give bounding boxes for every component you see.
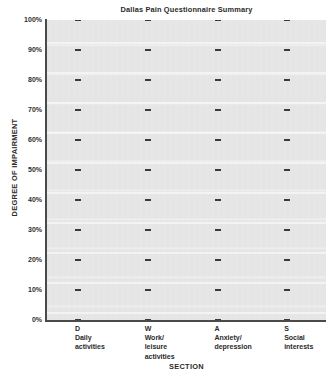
- cell-marker[interactable]: [215, 289, 221, 291]
- cell-marker[interactable]: [215, 169, 221, 171]
- cell-marker[interactable]: [284, 49, 290, 51]
- category-description-line: leisure: [145, 342, 215, 351]
- category-code: A: [214, 324, 284, 333]
- cell-marker[interactable]: [284, 289, 290, 291]
- cell-marker[interactable]: [284, 109, 290, 111]
- y-axis-tick-label: 30%: [2, 226, 42, 233]
- gridline: [47, 252, 326, 254]
- category-code: D: [75, 324, 145, 333]
- cell-marker[interactable]: [284, 199, 290, 201]
- cell-marker[interactable]: [145, 169, 151, 171]
- y-axis-tick-label: 20%: [2, 256, 42, 263]
- category-description-line: activities: [75, 342, 145, 351]
- gridline: [47, 312, 326, 314]
- cell-marker[interactable]: [145, 49, 151, 51]
- gridline: [47, 42, 326, 44]
- x-axis-title: SECTION: [47, 362, 326, 371]
- cell-marker[interactable]: [145, 199, 151, 201]
- cell-marker[interactable]: [284, 79, 290, 81]
- gridline: [47, 102, 326, 104]
- y-axis-tick-label: 100%: [2, 16, 42, 23]
- cell-marker[interactable]: [215, 199, 221, 201]
- cell-marker[interactable]: [75, 199, 81, 201]
- y-axis-title: DEGREE OF IMPAIRMENT: [10, 103, 19, 233]
- x-axis-category-d: DDailyactivities: [75, 324, 145, 352]
- category-description-line: activities: [145, 352, 215, 361]
- cell-marker[interactable]: [215, 79, 221, 81]
- cell-marker[interactable]: [145, 109, 151, 111]
- y-axis-line: [45, 19, 47, 322]
- x-axis-line: [45, 320, 326, 322]
- y-axis-tick-label: 80%: [2, 76, 42, 83]
- y-axis-tick-label: 10%: [2, 286, 42, 293]
- cell-marker[interactable]: [75, 109, 81, 111]
- gridline: [47, 162, 326, 164]
- y-axis-tick-label: 90%: [2, 46, 42, 53]
- cell-marker[interactable]: [284, 139, 290, 141]
- cell-marker[interactable]: [215, 229, 221, 231]
- category-description-line: Daily: [75, 333, 145, 342]
- cell-marker[interactable]: [215, 20, 221, 21]
- gridline: [47, 222, 326, 224]
- category-description-line: Social: [284, 333, 332, 342]
- cell-marker[interactable]: [215, 109, 221, 111]
- cell-marker[interactable]: [145, 79, 151, 81]
- category-description-line: Work/: [145, 333, 215, 342]
- cell-marker[interactable]: [75, 79, 81, 81]
- cell-marker[interactable]: [284, 20, 290, 21]
- y-axis-tick-label: 50%: [2, 166, 42, 173]
- dallas-pain-questionnaire-chart: Dallas Pain Questionnaire Summary 100%90…: [0, 0, 332, 377]
- cell-marker[interactable]: [75, 20, 81, 21]
- cell-marker[interactable]: [145, 139, 151, 141]
- cell-marker[interactable]: [215, 259, 221, 261]
- gridline: [47, 192, 326, 194]
- cell-marker[interactable]: [284, 169, 290, 171]
- x-axis-category-s: SSocialinterests: [284, 324, 332, 352]
- gridline: [47, 132, 326, 134]
- category-description-line: depression: [214, 342, 284, 351]
- y-axis-tick-labels: 100%90%80%70%60%50%40%30%20%10%0%: [0, 0, 42, 377]
- cell-marker[interactable]: [75, 169, 81, 171]
- cell-marker[interactable]: [75, 229, 81, 231]
- cell-marker[interactable]: [284, 259, 290, 261]
- category-code: S: [284, 324, 332, 333]
- y-axis-tick-label: 70%: [2, 106, 42, 113]
- x-axis-category-a: AAnxiety/depression: [214, 324, 284, 352]
- cell-marker[interactable]: [75, 139, 81, 141]
- y-axis-tick-label: 0%: [2, 316, 42, 323]
- y-axis-tick-label: 40%: [2, 196, 42, 203]
- cell-marker[interactable]: [75, 259, 81, 261]
- gridline: [47, 282, 326, 284]
- cell-marker[interactable]: [145, 20, 151, 21]
- cell-marker[interactable]: [215, 49, 221, 51]
- category-code: W: [145, 324, 215, 333]
- cell-marker[interactable]: [145, 289, 151, 291]
- cell-marker[interactable]: [145, 229, 151, 231]
- cell-marker[interactable]: [284, 229, 290, 231]
- cell-marker[interactable]: [75, 289, 81, 291]
- y-axis-tick-label: 60%: [2, 136, 42, 143]
- cell-marker[interactable]: [75, 49, 81, 51]
- x-axis-category-w: WWork/leisureactivities: [145, 324, 215, 361]
- cell-marker[interactable]: [145, 259, 151, 261]
- chart-title: Dallas Pain Questionnaire Summary: [47, 5, 326, 14]
- category-description-line: interests: [284, 342, 332, 351]
- cell-marker[interactable]: [215, 139, 221, 141]
- plot-area[interactable]: [47, 20, 326, 320]
- category-description-line: Anxiety/: [214, 333, 284, 342]
- gridline: [47, 72, 326, 74]
